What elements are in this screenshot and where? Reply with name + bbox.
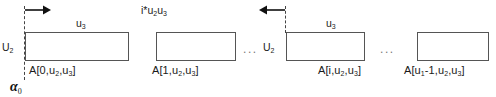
array-slice-label-1: A[1,u2,u3] [152,65,199,76]
alpha-origin-label: α0 [10,80,22,94]
top-dimension-label-1: u3 [76,18,86,29]
label-prefix-i: A[ [318,64,329,76]
label-suffix-last: ] [462,64,465,76]
label-suffix-i: ] [358,64,361,76]
top-dimension-sub-1: 3 [82,23,86,30]
array-slice-label-last: A[u1-1,u2,u3] [404,65,465,76]
label-sub-b-i: 3 [354,70,358,77]
array-slice-label-i: A[i,u2,u3] [318,65,361,76]
label-prefix-1: A[ [152,64,163,76]
left-dimension-sub-1: 2 [10,47,14,54]
left-dimension-base-2: U [263,41,271,53]
dashed-baseline-i [285,6,286,33]
label-index-rest-last: -1 [425,64,435,76]
arrow-left-icon [258,4,286,16]
label-sub-a-0: 2 [55,70,59,77]
label-mid-b-0: ,u [59,64,68,76]
label-sub-b-1: 3 [192,70,196,77]
ellipsis-1: ... [243,43,258,55]
left-dimension-label-2: U2 [263,42,275,53]
left-dimension-sub-2: 2 [271,47,275,54]
offset-expr-prefix: i*u [141,4,153,16]
top-dimension-sub-2: 3 [332,23,336,30]
label-suffix-0: ] [73,64,76,76]
top-dimension-base-2: u [326,17,332,29]
offset-expression-label: i*u2u3 [141,5,167,16]
label-sub-b-0: 3 [69,70,73,77]
alpha-subscript: 0 [18,87,22,96]
label-prefix-0: A[ [29,64,40,76]
label-sub-a-i: 2 [341,70,345,77]
label-mid-b-1: ,u [182,64,191,76]
top-dimension-label-2: u3 [326,18,336,29]
label-sub-a-1: 2 [178,70,182,77]
array-slice-label-0: A[0,u2,u3] [29,65,76,76]
label-mid-b-last: ,u [448,64,457,76]
array-decomposition-figure: u3 U2 A[0,u2,u3] α0 i*u2u3 A[1,u2,u3] ..… [0,0,496,97]
label-prefix-last: A[u [404,64,421,76]
alpha-symbol: α [10,79,18,94]
array-slice-box-1 [156,32,236,61]
array-slice-box-0 [25,32,129,61]
label-mid-a-i: ,u [331,64,340,76]
label-index-sub-last: 1 [421,70,425,77]
offset-expr-sub-2: 3 [163,10,167,17]
arrow-right-icon [24,4,52,16]
left-dimension-label-1: U2 [2,42,14,53]
left-dimension-base-1: U [2,41,10,53]
label-suffix-1: ] [196,64,199,76]
array-slice-box-i [286,32,365,61]
label-mid-a-last: ,u [435,64,444,76]
label-mid-a-0: ,u [46,64,55,76]
array-slice-box-last [417,32,489,61]
offset-expr-sub-1: 2 [153,10,157,17]
label-sub-a-last: 2 [444,70,448,77]
label-mid-a-1: ,u [169,64,178,76]
label-sub-b-last: 3 [458,70,462,77]
top-dimension-base-1: u [76,17,82,29]
ellipsis-2: ... [380,43,395,55]
label-mid-b-i: ,u [345,64,354,76]
